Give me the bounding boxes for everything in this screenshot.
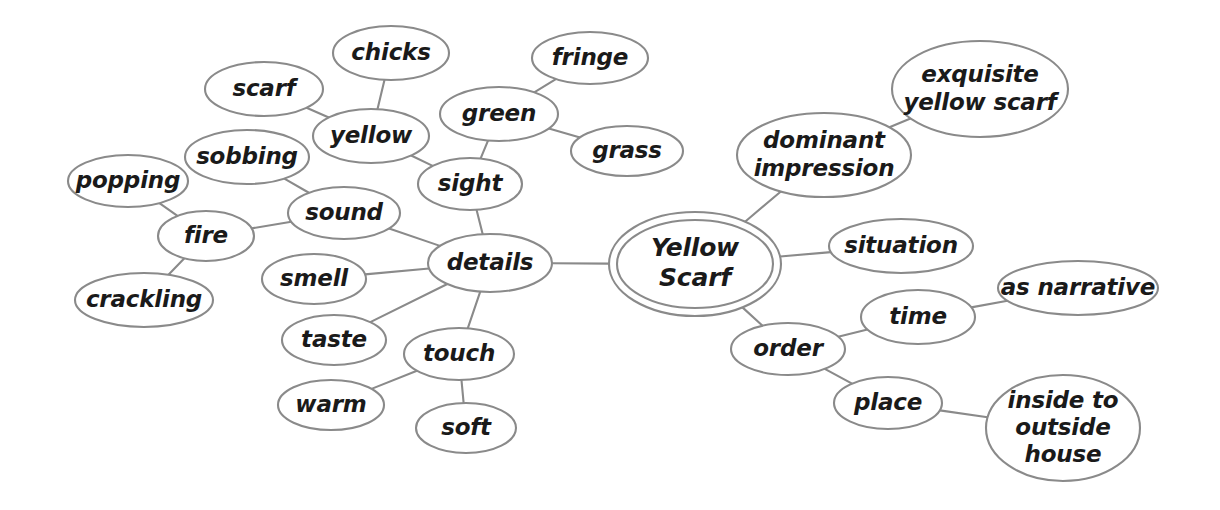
node-touch[interactable]: touch <box>404 328 514 380</box>
node-fringe[interactable]: fringe <box>532 32 648 84</box>
node-crackling[interactable]: crackling <box>75 273 213 327</box>
edge-place-to-inside_outside <box>940 410 988 417</box>
node-sound[interactable]: sound <box>288 187 400 239</box>
node-taste-label-line-0: taste <box>301 326 367 352</box>
node-sight-label-line-0: sight <box>438 170 504 196</box>
node-details[interactable]: details <box>428 234 552 292</box>
edge-yellow-to-chicks <box>377 80 384 109</box>
node-situation-label: situation <box>844 232 958 258</box>
edge-details-to-taste <box>370 284 447 322</box>
edge-yellow-to-scarf <box>307 108 329 118</box>
node-details-label: details <box>447 249 534 275</box>
edge-sight-to-yellow <box>411 155 433 165</box>
node-smell-label-line-0: smell <box>280 265 349 291</box>
node-yellow_scarf[interactable]: YellowScarf <box>609 212 781 316</box>
node-yellow[interactable]: yellow <box>313 109 429 163</box>
node-green-label: green <box>462 100 536 126</box>
edge-yellow_scarf-to-situation <box>780 252 831 256</box>
node-as_narrative-label: as narrative <box>1001 274 1155 300</box>
node-inside_outside[interactable]: inside tooutsidehouse <box>986 375 1140 481</box>
edge-dominant-to-exquisite <box>889 118 910 127</box>
node-smell[interactable]: smell <box>262 254 366 304</box>
node-grass-label-line-0: grass <box>592 137 662 163</box>
node-yellow_scarf-label-line-1: Scarf <box>659 263 734 292</box>
node-time[interactable]: time <box>861 290 975 344</box>
node-sight[interactable]: sight <box>418 158 522 210</box>
node-taste-label: taste <box>301 326 367 352</box>
edge-touch-to-soft <box>461 380 463 403</box>
node-place[interactable]: place <box>834 377 942 429</box>
node-inside_outside-label-line-0: inside to <box>1008 386 1119 412</box>
node-dominant[interactable]: dominantimpression <box>737 113 911 197</box>
node-dominant-label: dominantimpression <box>754 127 895 180</box>
node-dominant-label-line-0: dominant <box>763 127 886 153</box>
node-details-label-line-0: details <box>447 249 534 275</box>
edge-details-to-smell <box>365 269 429 275</box>
edge-time-to-as_narrative <box>971 301 1007 308</box>
node-order-label-line-0: order <box>753 335 824 361</box>
mindmap-canvas: YellowScarfdetailssightsoundsmelltasteto… <box>0 0 1220 510</box>
node-yellow_scarf-label-line-0: Yellow <box>651 233 740 262</box>
node-as_narrative-label-line-0: as narrative <box>1001 274 1155 300</box>
node-scarf[interactable]: scarf <box>205 62 323 116</box>
mindmap-diagram: YellowScarfdetailssightsoundsmelltasteto… <box>0 0 1220 510</box>
node-order-label: order <box>753 335 824 361</box>
node-inside_outside-label-line-2: house <box>1025 441 1102 467</box>
node-as_narrative[interactable]: as narrative <box>998 261 1158 315</box>
node-situation-label-line-0: situation <box>844 232 958 258</box>
node-fire[interactable]: fire <box>158 211 254 261</box>
node-chicks-label-line-0: chicks <box>351 39 430 65</box>
node-sobbing-label-line-0: sobbing <box>196 143 298 169</box>
edge-sound-to-fire <box>252 222 292 229</box>
edge-fire-to-popping <box>159 203 177 216</box>
edge-yellow_scarf-to-dominant <box>745 191 781 221</box>
node-soft-label-line-0: soft <box>441 414 492 440</box>
node-smell-label: smell <box>280 265 349 291</box>
node-time-label: time <box>889 303 947 329</box>
edge-green-to-grass <box>549 128 580 137</box>
node-place-label: place <box>853 389 922 415</box>
node-warm-label: warm <box>295 391 366 417</box>
node-green[interactable]: green <box>440 87 558 141</box>
node-warm[interactable]: warm <box>278 380 384 430</box>
node-taste[interactable]: taste <box>282 315 386 365</box>
edge-touch-to-warm <box>371 371 416 389</box>
edge-order-to-time <box>838 329 867 336</box>
node-exquisite-label-line-1: yellow scarf <box>903 88 1059 114</box>
node-popping[interactable]: popping <box>68 155 188 207</box>
node-time-label-line-0: time <box>889 303 947 329</box>
node-exquisite-label-line-0: exquisite <box>921 61 1039 87</box>
node-soft[interactable]: soft <box>416 403 516 453</box>
node-sound-label: sound <box>305 199 383 225</box>
node-exquisite-label: exquisiteyellow scarf <box>903 61 1059 114</box>
edge-fire-to-crackling <box>168 258 184 274</box>
node-sobbing[interactable]: sobbing <box>185 130 309 184</box>
nodes-layer: YellowScarfdetailssightsoundsmelltasteto… <box>68 26 1158 481</box>
node-place-label-line-0: place <box>853 389 922 415</box>
edge-sound-to-sobbing <box>284 179 309 193</box>
edge-yellow_scarf-to-order <box>742 307 762 325</box>
edge-details-to-sound <box>389 228 440 245</box>
edge-green-to-fringe <box>534 79 556 92</box>
node-fringe-label: fringe <box>552 44 628 70</box>
node-situation[interactable]: situation <box>829 219 973 273</box>
node-fire-label-line-0: fire <box>184 222 228 248</box>
node-yellow-label-line-0: yellow <box>330 122 413 148</box>
node-crackling-label-line-0: crackling <box>86 286 202 312</box>
node-touch-label-line-0: touch <box>423 340 495 366</box>
node-order[interactable]: order <box>731 323 845 375</box>
node-warm-label-line-0: warm <box>295 391 366 417</box>
node-chicks-label: chicks <box>351 39 430 65</box>
node-touch-label: touch <box>423 340 495 366</box>
edge-sight-to-green <box>481 141 488 159</box>
node-dominant-label-line-1: impression <box>754 154 895 180</box>
node-popping-label-line-0: popping <box>75 167 181 193</box>
node-scarf-label-line-0: scarf <box>232 75 298 101</box>
node-exquisite[interactable]: exquisiteyellow scarf <box>892 41 1068 137</box>
node-chicks[interactable]: chicks <box>333 26 449 80</box>
node-sight-label: sight <box>438 170 504 196</box>
node-grass[interactable]: grass <box>571 126 683 176</box>
node-sobbing-label: sobbing <box>196 143 298 169</box>
edge-order-to-place <box>825 369 852 384</box>
node-yellow_scarf-label: YellowScarf <box>651 233 740 292</box>
